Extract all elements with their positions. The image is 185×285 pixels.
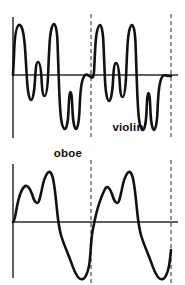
oboe-label: oboe [54, 147, 82, 159]
oboe-waveform-cycle-2 [91, 172, 171, 279]
oboe-waveform-panel: oboe [0, 140, 185, 285]
oboe-waveform-cycle-1 [13, 172, 91, 279]
violin-waveform-panel: violin [0, 0, 185, 145]
violin-label: violin [112, 121, 143, 133]
violin-waveform-cycle-2 [91, 25, 171, 130]
waveform-figure: violin oboe [0, 0, 185, 285]
violin-waveform-cycle-1 [13, 24, 91, 129]
